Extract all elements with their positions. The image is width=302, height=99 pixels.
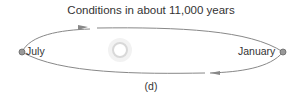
- diagram-title: Conditions in about 11,000 years: [0, 4, 302, 16]
- label-january: January: [238, 45, 275, 57]
- caption: (d): [0, 80, 302, 92]
- label-july: July: [26, 45, 45, 57]
- earth-icon: [19, 49, 25, 55]
- earth-icon: [280, 49, 286, 55]
- arrow-icon: [210, 71, 220, 75]
- sun-icon: [108, 38, 132, 62]
